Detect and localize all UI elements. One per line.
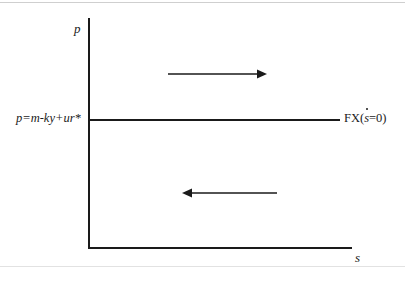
fx-phase-diagram: p s p=m-ky+ur* FX(s=0) (0, 0, 405, 282)
bottom-edge-rule (0, 266, 405, 267)
y-axis (88, 18, 90, 249)
fx-label-suffix: =0) (369, 111, 386, 125)
s-dot-variable: s (364, 112, 369, 125)
fx-equation-label: p=m-ky+ur* (16, 112, 81, 125)
x-axis (88, 247, 352, 249)
fx-equilibrium-line (89, 119, 340, 121)
fx-label-prefix: FX( (344, 111, 364, 125)
upper-right-arrow (168, 64, 268, 84)
x-axis-label: s (355, 251, 360, 264)
top-edge-rule (0, 2, 405, 3)
fx-curve-label: FX(s=0) (344, 112, 387, 125)
y-axis-label: p (74, 22, 81, 35)
lower-left-arrow (182, 183, 277, 203)
